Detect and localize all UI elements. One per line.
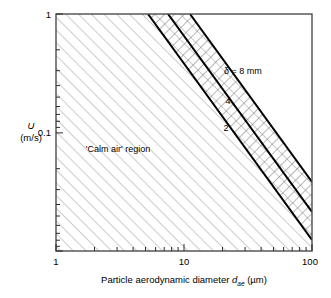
annotation-delta-8: δ = 8 mm	[224, 66, 262, 76]
y-axis-label: U	[28, 120, 35, 131]
y-tick-label-1: 1	[46, 9, 51, 20]
x-tick-label-1: 1	[53, 256, 58, 267]
x-tick-label-100: 100	[302, 256, 318, 267]
x-tick-label-10: 10	[179, 256, 190, 267]
x-axis-label-main: Particle aerodynamic diameter	[101, 274, 232, 285]
svg-text:Particle aerodynamic diameter: Particle aerodynamic diameter dae (µm)	[101, 274, 267, 287]
chart-figure: 1 10 100 1 0.1 U (m/s) Particle aerodyna…	[0, 0, 331, 298]
x-axis-label-units: (µm)	[245, 274, 267, 285]
x-axis-label: Particle aerodynamic diameter dae (µm)	[101, 274, 267, 287]
y-axis-units: (m/s)	[20, 132, 42, 143]
chart-svg: 1 10 100 1 0.1 U (m/s) Particle aerodyna…	[0, 0, 331, 298]
calm-air-region-label: 'Calm air' region	[86, 144, 150, 154]
annotation-delta-2: 2	[223, 123, 228, 133]
annotation-delta-4: 4	[225, 96, 230, 106]
